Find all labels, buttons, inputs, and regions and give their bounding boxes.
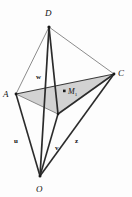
figure-canvas: D C A O M1 w u v z (0, 0, 132, 197)
edge-d-c (49, 27, 114, 74)
vertex-label-a: A (2, 89, 9, 99)
point-marker-m1 (63, 90, 66, 93)
geometry-figure: D C A O M1 w u v z (0, 0, 132, 197)
vector-label-u: u (14, 137, 18, 145)
vertex-label-c: C (118, 68, 125, 78)
vector-label-z: z (75, 137, 78, 145)
vertex-dot-c (113, 73, 116, 76)
vector-label-v: v (55, 144, 59, 152)
edge-o-a (16, 94, 40, 176)
vertex-dot-d (47, 25, 50, 28)
edge-a-d (16, 27, 49, 94)
vertex-label-o: O (36, 184, 43, 194)
vertex-dot-a (15, 93, 18, 96)
vertex-label-d: D (44, 8, 52, 18)
vertex-dot-o (39, 175, 42, 178)
vector-label-w: w (36, 73, 42, 81)
vertex-dot-b (57, 113, 60, 116)
